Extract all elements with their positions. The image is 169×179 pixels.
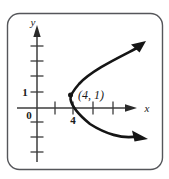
x-axis-label: x bbox=[144, 102, 150, 114]
vertex-coordinate-label: (4, 1) bbox=[78, 88, 104, 102]
y-tick-label-one: 1 bbox=[22, 86, 28, 98]
y-axis-label: y bbox=[30, 16, 36, 28]
graph-canvas: y x 0 1 4 (4, 1) bbox=[0, 0, 169, 179]
figure-container: y x 0 1 4 (4, 1) bbox=[0, 0, 169, 179]
x-tick-label-four: 4 bbox=[70, 114, 76, 126]
origin-label: 0 bbox=[26, 109, 32, 121]
vertex-point-marker bbox=[68, 93, 73, 98]
